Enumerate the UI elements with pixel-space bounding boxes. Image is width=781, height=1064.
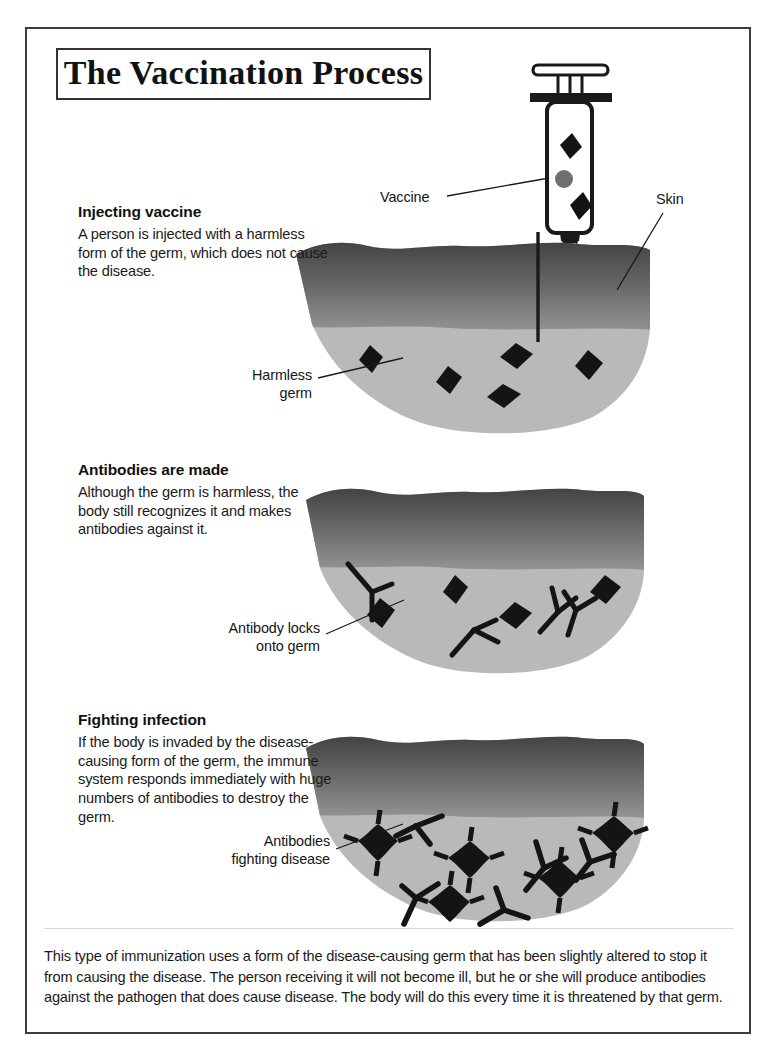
skin-layer [288, 232, 658, 330]
page-title: The Vaccination Process [64, 56, 424, 92]
step-heading: Antibodies are made [78, 461, 328, 479]
step-body: If the body is invaded by the disease-ca… [78, 733, 336, 827]
skin-layer [300, 480, 650, 570]
step-body: Although the germ is harmless, the body … [78, 483, 328, 539]
caption-divider [44, 928, 734, 929]
tissue-panel-injection [288, 232, 658, 437]
callout-label-antibodies-fighting: Antibodies fighting disease [160, 832, 330, 869]
tissue-panel-antibodies [300, 480, 650, 680]
callout-label-vaccine: Vaccine [380, 188, 442, 206]
infographic-page: The Vaccination Process [0, 0, 781, 1064]
step-block-antibodies-are-made: Antibodies are made Although the germ is… [78, 461, 328, 539]
step-block-fighting-infection: Fighting infection If the body is invade… [78, 711, 336, 827]
vaccine-dot [555, 170, 573, 188]
step-heading: Fighting infection [78, 711, 336, 729]
step-block-injecting-vaccine: Injecting vaccine A person is injected w… [78, 203, 328, 281]
caption-text: This type of immunization uses a form of… [44, 946, 736, 1008]
syringe-plunger-top [533, 65, 608, 75]
title-box: The Vaccination Process [56, 48, 431, 100]
tissue-panel-fighting [300, 728, 650, 928]
callout-label-skin: Skin [656, 190, 716, 208]
callout-label-antibody-locks: Antibody locks onto germ [160, 619, 320, 656]
step-heading: Injecting vaccine [78, 203, 328, 221]
syringe-barrel [547, 102, 592, 233]
callout-label-harmless-germ: Harmless germ [200, 366, 312, 403]
skin-layer [300, 728, 650, 818]
step-body: A person is injected with a harmless for… [78, 225, 328, 281]
